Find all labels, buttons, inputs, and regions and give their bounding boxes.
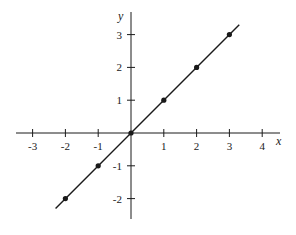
line-chart: -3-2-11234 -2-1123 x y	[0, 0, 296, 235]
x-tick-label: -3	[28, 140, 38, 152]
data-point	[194, 65, 199, 70]
y-axis-ticks: -2-1123	[113, 29, 135, 205]
series-line	[56, 25, 240, 209]
x-tick-label: 4	[259, 140, 265, 152]
data-point	[63, 196, 68, 201]
x-tick-label: 2	[194, 140, 200, 152]
x-tick-label: 3	[227, 140, 233, 152]
data-series	[56, 25, 240, 209]
data-point	[128, 130, 133, 135]
y-tick-label: -2	[113, 193, 122, 205]
data-point	[161, 98, 166, 103]
y-tick-label: 3	[117, 29, 123, 41]
y-tick-label: 2	[117, 61, 123, 73]
y-tick-label: 1	[117, 94, 123, 106]
x-axis-ticks: -3-2-11234	[28, 129, 265, 152]
x-tick-label: 1	[161, 140, 167, 152]
y-tick-label: -1	[113, 160, 122, 172]
data-point	[96, 163, 101, 168]
y-axis-label: y	[117, 9, 124, 23]
x-tick-label: -2	[61, 140, 70, 152]
x-tick-label: -1	[94, 140, 103, 152]
x-axis-label: x	[275, 134, 282, 148]
data-point	[227, 32, 232, 37]
